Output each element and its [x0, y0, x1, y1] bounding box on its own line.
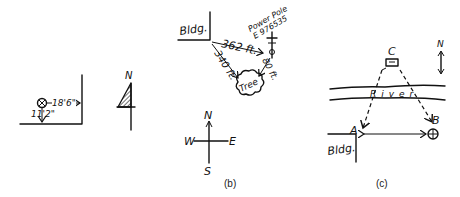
- building-label: Bldg.: [179, 21, 209, 38]
- point-c-label: C: [388, 45, 396, 58]
- vertical-distance-label: 11'2": [31, 109, 55, 119]
- compass-north: N: [204, 109, 212, 122]
- point-symbol-icon: [38, 99, 47, 108]
- tree-label: Tree: [238, 76, 260, 94]
- north-label: N: [125, 70, 133, 81]
- power-pole-icon: [267, 32, 277, 58]
- panel-b-caption: (b): [224, 178, 236, 189]
- north-arrow-icon: [117, 83, 135, 130]
- point-b-label: B: [432, 114, 440, 127]
- north-label: N: [437, 39, 444, 49]
- horizontal-distance-label: 18'6": [52, 98, 76, 108]
- building-label: Bldg.: [327, 141, 357, 158]
- panel-b: Bldg. 362 ft. Power Pole E 976535 340 ft…: [178, 4, 289, 189]
- panel-c-caption: (c): [376, 178, 388, 189]
- compass-east: E: [229, 135, 236, 148]
- river-label: River: [370, 89, 418, 99]
- compass-icon: [194, 121, 228, 163]
- north-arrow-icon: [438, 51, 444, 74]
- instrument-icon: [386, 59, 398, 66]
- sight-line-a: [363, 70, 382, 128]
- bldg-to-tree-distance: 340 ft.: [212, 48, 239, 82]
- compass-west: W: [184, 135, 196, 148]
- compass-south: S: [204, 165, 211, 178]
- point-b-symbol-icon: [428, 129, 438, 139]
- panel-c: C River N A B Bldg. (c): [327, 39, 445, 189]
- survey-diagram: 18'6" 11'2" N Bldg. 362 ft. Power Pole E…: [0, 0, 460, 197]
- panel-a: 18'6" 11'2" N: [20, 70, 135, 130]
